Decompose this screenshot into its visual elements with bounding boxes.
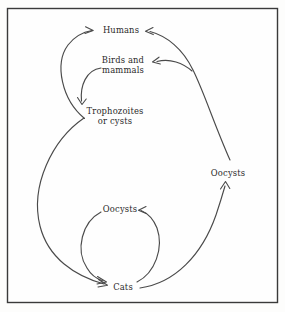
figure-frame <box>8 9 278 303</box>
diagram-figure: Humans Birds and mammals Trophozoites or… <box>0 0 285 312</box>
diagram-canvas <box>0 0 285 312</box>
